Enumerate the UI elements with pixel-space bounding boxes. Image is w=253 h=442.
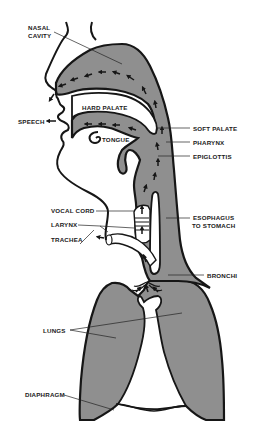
label-bronchi: BRONCHI [207, 272, 237, 280]
label-nasal-cavity: NASAL CAVITY [28, 24, 51, 39]
airway [56, 44, 210, 288]
label-epiglottis: EPIGLOTTIS [193, 153, 232, 161]
label-nasal-line1: NASAL [28, 24, 51, 32]
trachea-opening [106, 235, 112, 245]
label-nasal-line2: CAVITY [28, 32, 51, 40]
label-esophagus: ESOPHAGUS TO STOMACH [192, 214, 235, 229]
label-diaphragm: DIAPHRAGM [25, 391, 65, 399]
label-lungs: LUNGS [43, 327, 66, 335]
airway-shape [56, 44, 210, 288]
label-tongue: TONGUE [102, 136, 130, 144]
label-esophagus-line1: ESOPHAGUS [192, 214, 235, 222]
label-trachea: TRACHEA [51, 236, 83, 244]
tongue-curl [89, 132, 100, 143]
label-esophagus-line2: TO STOMACH [192, 222, 235, 230]
label-vocal-cord: VOCAL CORD [51, 207, 94, 215]
label-hard-palate: HARD PALATE [82, 104, 128, 112]
nose-bridge [91, 22, 96, 40]
label-pharynx: PHARYNX [193, 139, 224, 147]
label-soft-palate: SOFT PALATE [193, 125, 237, 133]
lungs [80, 279, 224, 420]
label-speech: SPEECH [18, 118, 45, 126]
label-larynx: LARYNX [51, 221, 77, 229]
